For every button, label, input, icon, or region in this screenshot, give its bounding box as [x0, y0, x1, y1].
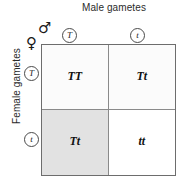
punnett-cell-row1-col1: TT	[42, 45, 109, 110]
punnett-cell-row2-col1: Tt	[42, 110, 109, 175]
genotype-label: TT	[67, 69, 82, 84]
female-sex-symbol-icon: ♀	[26, 36, 37, 51]
punnett-cell-row1-col2: Tt	[109, 45, 176, 110]
female-gametes-axis-label: Female gametes	[11, 26, 23, 146]
female-gamete-allele-1: T	[24, 66, 39, 81]
genotype-label: tt	[138, 134, 145, 149]
male-gametes-axis-label: Male gametes	[46, 2, 182, 14]
male-sex-symbol-icon: ♂	[38, 21, 51, 36]
genotype-label: Tt	[136, 69, 147, 84]
punnett-grid: TT Tt Tt tt	[41, 44, 176, 176]
female-gamete-allele-2: t	[24, 132, 39, 147]
genotype-label: Tt	[69, 134, 80, 149]
male-gamete-allele-1: T	[62, 28, 77, 43]
punnett-square-diagram: Male gametes Female gametes ♂ ♀ T t T t …	[0, 0, 185, 190]
male-gamete-allele-2: t	[130, 28, 145, 43]
punnett-cell-row2-col2: tt	[109, 110, 176, 175]
